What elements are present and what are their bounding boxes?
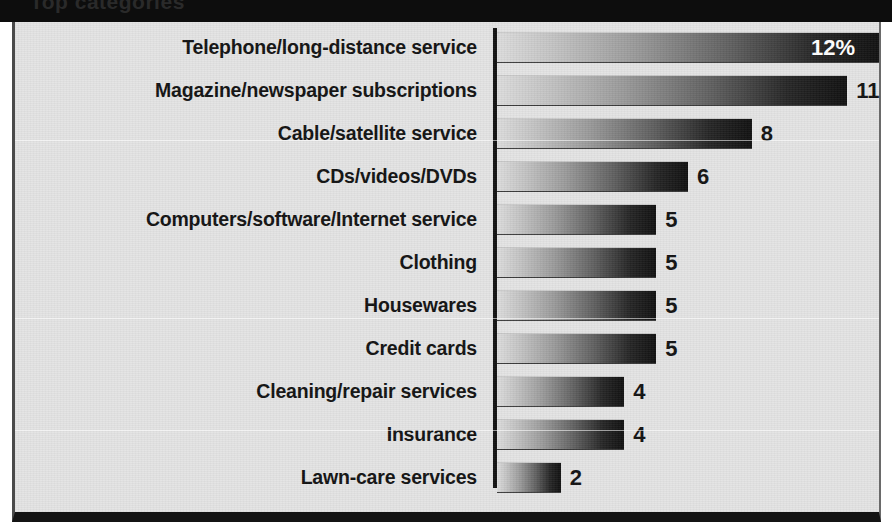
bar-fill (497, 204, 656, 235)
category-label: Clothing (15, 241, 477, 284)
bar-value-label: 4 (633, 419, 645, 450)
bar-row: Telephone/long-distance service12% (15, 26, 879, 69)
bar-row: Housewares5 (15, 284, 879, 327)
bar-value-label: 5 (665, 333, 677, 364)
bar (497, 204, 656, 235)
bar-value-label: 12% (811, 32, 855, 63)
bar-row: Clothing5 (15, 241, 879, 284)
bar (497, 161, 688, 192)
bar-fill (497, 419, 624, 450)
bar-row: Credit cards5 (15, 327, 879, 370)
bar (497, 290, 656, 321)
bar-row: Lawn-care services2 (15, 456, 879, 499)
chart-plate: Telephone/long-distance service12%Magazi… (12, 22, 881, 522)
category-label: Telephone/long-distance service (15, 26, 477, 69)
bar-fill (497, 333, 656, 364)
bar-value-label: 8 (761, 118, 773, 149)
bar-row: CDs/videos/DVDs6 (15, 155, 879, 198)
bar (497, 462, 561, 493)
category-label: Cleaning/repair services (15, 370, 477, 413)
bar-value-label: 5 (665, 204, 677, 235)
category-label: Credit cards (15, 327, 477, 370)
bar-fill (497, 75, 847, 106)
bar (497, 75, 847, 106)
bar-fill (497, 462, 561, 493)
category-label: Housewares (15, 284, 477, 327)
bar-row: Cable/satellite service8 (15, 112, 879, 155)
bar (497, 419, 624, 450)
bar-fill (497, 118, 752, 149)
bar-value-label: 5 (665, 247, 677, 278)
bar (497, 333, 656, 364)
category-label: Magazine/newspaper subscriptions (15, 69, 477, 112)
chart-figure: Top categories Telephone/long-distance s… (0, 0, 892, 531)
category-label: Cable/satellite service (15, 112, 477, 155)
bar-chart: Telephone/long-distance service12%Magazi… (15, 22, 879, 512)
title-banner: Top categories (0, 0, 892, 22)
bar-fill (497, 376, 624, 407)
bar-value-label: 4 (633, 376, 645, 407)
category-label: Insurance (15, 413, 477, 456)
bar-fill (497, 247, 656, 278)
bar (497, 247, 656, 278)
category-axis (493, 28, 497, 488)
bar-row: Computers/software/Internet service5 (15, 198, 879, 241)
title-banner-text: Top categories (30, 0, 185, 14)
category-label: Computers/software/Internet service (15, 198, 477, 241)
bar-row: Cleaning/repair services4 (15, 370, 879, 413)
bar-value-label: 6 (697, 161, 709, 192)
bar-fill (497, 290, 656, 321)
bar-row: Magazine/newspaper subscriptions11 (15, 69, 879, 112)
category-label: Lawn-care services (15, 456, 477, 499)
bar-value-label: 11 (856, 75, 879, 106)
bar-fill (497, 161, 688, 192)
bar-row: Insurance4 (15, 413, 879, 456)
bar (497, 376, 624, 407)
category-label: CDs/videos/DVDs (15, 155, 477, 198)
bar-value-label: 2 (570, 462, 582, 493)
bar (497, 118, 752, 149)
bar-value-label: 5 (665, 290, 677, 321)
